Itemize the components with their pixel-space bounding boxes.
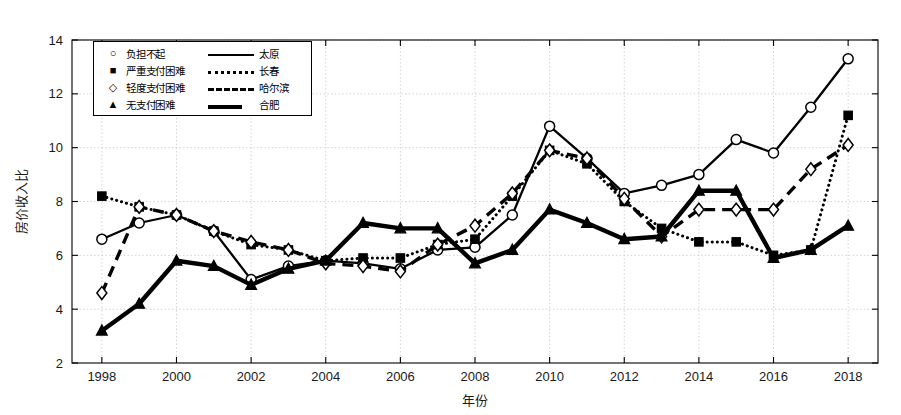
data-point-marker: [545, 121, 555, 131]
data-point-marker: [844, 111, 852, 119]
data-point-marker: [843, 139, 853, 152]
x-tick-label: 2014: [684, 369, 713, 384]
data-point-marker: [695, 238, 703, 246]
chart-legend: ○ 负担不起 太原 ■ 严重支付困难 长春 ◇ 轻度支付困难 哈尔滨 ▲ 无支付…: [93, 41, 312, 116]
data-point-marker: [769, 148, 779, 158]
triangle-marker-icon: ▲: [100, 99, 126, 110]
x-tick-label: 2000: [162, 369, 191, 384]
data-point-marker: [507, 210, 517, 220]
legend-row: ■ 严重支付困难 长春: [100, 62, 305, 79]
y-axis-title: 房价收入比: [14, 169, 29, 234]
data-point-marker: [98, 192, 106, 200]
x-tick-label: 2010: [535, 369, 564, 384]
legend-category-label: 严重支付困难: [126, 63, 208, 78]
data-point-marker: [134, 218, 144, 228]
legend-category-label: 负担不起: [126, 46, 208, 61]
y-tick-label: 2: [56, 356, 63, 371]
x-axis-title: 年份: [462, 393, 488, 408]
x-tick-label: 2008: [461, 369, 490, 384]
legend-row: ○ 负担不起 太原: [100, 45, 305, 62]
line-style-dashed-icon: [208, 82, 254, 93]
y-tick-label: 8: [56, 194, 63, 209]
data-point-marker: [843, 54, 853, 64]
data-point-marker: [843, 220, 854, 230]
legend-city-label: 哈尔滨: [259, 80, 288, 95]
y-tick-label: 6: [56, 248, 63, 263]
square-marker-icon: ■: [100, 65, 126, 76]
legend-city-label: 长春: [259, 63, 279, 78]
line-style-thick-icon: [208, 99, 254, 110]
data-point-marker: [694, 170, 704, 180]
legend-city-label: 太原: [259, 46, 279, 61]
x-tick-label: 2016: [759, 369, 788, 384]
x-tick-label: 2004: [311, 369, 340, 384]
legend-category-label: 无支付困难: [126, 97, 208, 112]
legend-row: ◇ 轻度支付困难 哈尔滨: [100, 79, 305, 96]
legend-category-label: 轻度支付困难: [126, 80, 208, 95]
legend-row: ▲ 无支付困难 合肥: [100, 96, 305, 113]
legend-city-label: 合肥: [259, 97, 279, 112]
x-tick-label: 2002: [237, 369, 266, 384]
data-point-marker: [731, 135, 741, 145]
line-style-dotted-icon: [208, 65, 254, 76]
data-point-marker: [396, 254, 404, 262]
data-point-marker: [806, 102, 816, 112]
diamond-marker-icon: ◇: [100, 82, 126, 93]
x-tick-label: 2012: [610, 369, 639, 384]
y-tick-label: 12: [49, 86, 63, 101]
chart-figure: 2468101214199820002002200420062008201020…: [0, 0, 901, 415]
y-tick-label: 14: [49, 33, 63, 48]
data-point-marker: [657, 180, 667, 190]
x-tick-label: 2018: [834, 369, 863, 384]
line-style-solid-icon: [208, 48, 254, 59]
data-point-marker: [97, 234, 107, 244]
y-tick-label: 4: [56, 302, 63, 317]
data-point-marker: [732, 238, 740, 246]
x-tick-label: 1998: [87, 369, 116, 384]
data-point-marker: [471, 235, 479, 243]
circle-marker-icon: ○: [100, 48, 126, 59]
y-tick-label: 10: [49, 140, 63, 155]
x-tick-label: 2006: [386, 369, 415, 384]
data-point-marker: [731, 203, 741, 216]
